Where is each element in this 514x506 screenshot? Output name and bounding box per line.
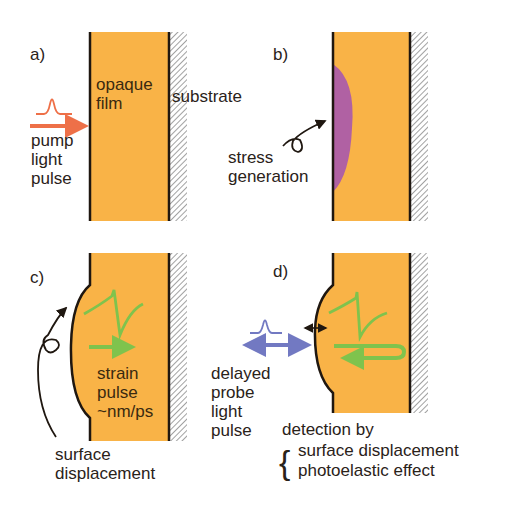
detection-item-surface: surface displacement — [298, 441, 459, 460]
displacement-label: surface displacement — [55, 445, 155, 483]
panel-a-label: a) — [30, 45, 45, 64]
substrate-label: substrate — [172, 87, 242, 106]
panel-d-label: d) — [273, 262, 288, 281]
pump-pulse-icon — [36, 100, 72, 115]
detection-title: detection by — [282, 420, 374, 439]
detection-brace: { — [279, 442, 290, 482]
probe-pulse-icon — [250, 321, 282, 334]
panel-b — [283, 32, 428, 221]
displacement-pointer-icon — [38, 308, 66, 437]
probe-label: delayed probe light pulse — [211, 364, 271, 440]
panel-a — [30, 32, 187, 221]
panel-b-label: b) — [273, 45, 288, 64]
strain-label: strain pulse ~nm/ps — [97, 364, 153, 421]
pump-label: pump light pulse — [31, 131, 74, 188]
panel-c-label: c) — [30, 268, 44, 287]
film-label: opaque film — [96, 75, 153, 113]
detection-item-photoelastic: photoelastic effect — [298, 461, 435, 480]
stress-label: stress generation — [228, 148, 308, 186]
